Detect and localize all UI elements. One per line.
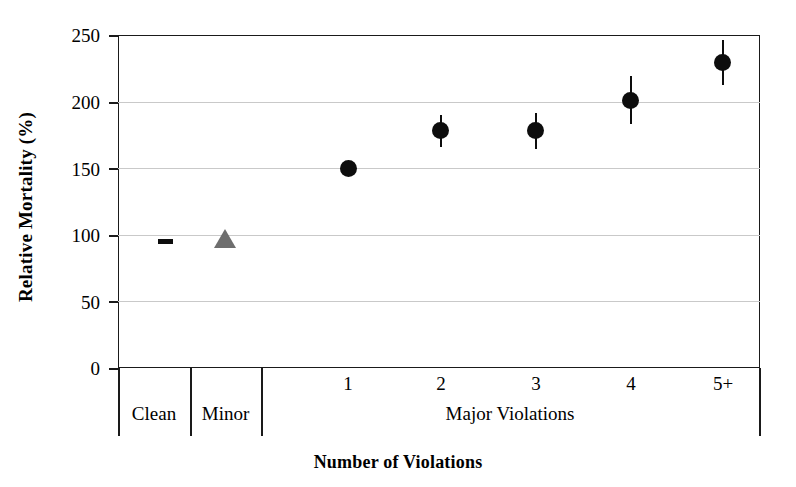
gridline-150	[118, 168, 760, 169]
data-marker-clean	[158, 239, 173, 244]
data-marker-1	[340, 160, 357, 177]
y-tick-label-150: 150	[40, 160, 100, 179]
y-tick-mark	[109, 301, 118, 303]
data-marker-4	[622, 92, 639, 109]
x-tick-label-1: 1	[318, 374, 378, 393]
x-axis-title: Number of Violations	[0, 452, 796, 473]
group-separator-right	[759, 368, 761, 436]
x-tick-label-2: 2	[411, 374, 471, 393]
gridline-200	[118, 102, 760, 103]
x-tick-label-3: 3	[506, 374, 566, 393]
y-tick-mark	[109, 368, 118, 370]
chart-figure: Relative Mortality (%) 250 200 150 100 5…	[0, 0, 796, 487]
plot-area	[118, 35, 760, 368]
y-axis-title: Relative Mortality (%)	[15, 77, 37, 337]
gridline-50	[118, 301, 760, 302]
data-marker-5plus	[714, 54, 731, 71]
y-tick-mark	[109, 235, 118, 237]
x-tick-label-5plus: 5+	[693, 374, 753, 393]
group-separator-left	[118, 368, 120, 436]
data-marker-3	[527, 122, 544, 139]
data-marker-2	[432, 122, 449, 139]
group-separator-minor	[261, 368, 263, 436]
group-label-clean: Clean	[118, 404, 190, 423]
y-tick-mark	[109, 102, 118, 104]
y-tick-mark	[109, 35, 118, 37]
y-tick-label-250: 250	[40, 26, 100, 45]
y-tick-mark	[109, 168, 118, 170]
group-label-major: Major Violations	[261, 404, 759, 423]
y-tick-label-50: 50	[40, 293, 100, 312]
group-label-minor: Minor	[190, 404, 261, 423]
y-tick-label-100: 100	[40, 226, 100, 245]
y-tick-label-200: 200	[40, 93, 100, 112]
y-tick-label-0: 0	[40, 359, 100, 378]
x-tick-label-4: 4	[601, 374, 661, 393]
data-marker-minor	[214, 229, 236, 248]
group-separator-clean	[190, 368, 192, 436]
